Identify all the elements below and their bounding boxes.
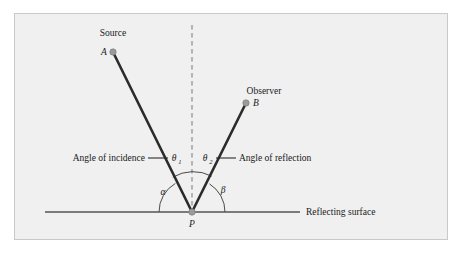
reflecting-surface-label: Reflecting surface — [306, 207, 375, 217]
reflection-diagram: Source A Observer B P Angle of incidence… — [0, 0, 463, 254]
theta-1-subscript: 1 — [178, 158, 181, 165]
point-p-dot — [189, 209, 195, 215]
theta-1-label: θ — [172, 153, 177, 163]
source-label: Source — [100, 28, 126, 38]
point-a-dot — [110, 49, 116, 55]
angle-of-reflection-label: Angle of reflection — [239, 153, 312, 163]
point-b-dot — [243, 100, 249, 106]
point-a-label: A — [100, 47, 107, 57]
point-b-label: B — [253, 98, 259, 108]
angle-of-incidence-label: Angle of incidence — [73, 153, 145, 163]
point-p-label: P — [188, 219, 195, 229]
beta-label: β — [220, 185, 226, 195]
theta-2-subscript: 2 — [209, 158, 213, 165]
observer-label: Observer — [247, 86, 283, 96]
figure-root: Source A Observer B P Angle of incidence… — [0, 0, 463, 254]
incident-ray — [113, 52, 192, 212]
theta-2-label: θ — [203, 153, 208, 163]
